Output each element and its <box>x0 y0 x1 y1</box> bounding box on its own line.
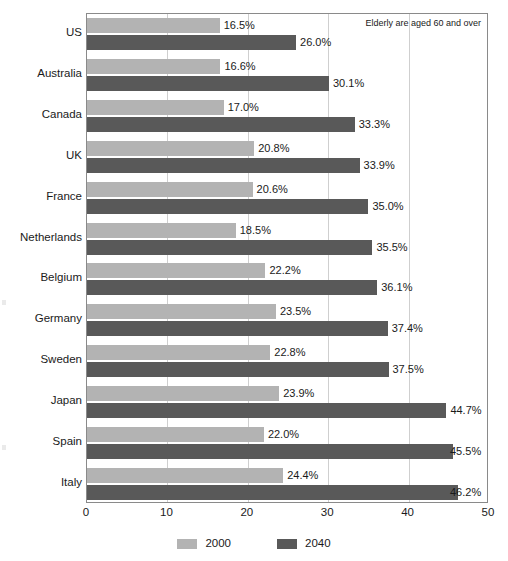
category-label-sweden: Sweden <box>2 354 82 366</box>
bar-row: 36.1% <box>87 280 487 295</box>
bar-2040-australia <box>87 76 329 91</box>
category-label-spain: Spain <box>2 436 82 448</box>
bar-track: 22.8% <box>87 345 487 360</box>
bar-2000-germany <box>87 304 276 319</box>
category-label-france: France <box>2 191 82 203</box>
bar-row: 37.4% <box>87 321 487 336</box>
bar-track: 17.0% <box>87 100 487 115</box>
x-tick-label: 50 <box>482 507 495 519</box>
bar-track: 33.3% <box>87 117 487 132</box>
bar-track: 30.1% <box>87 76 487 91</box>
bar-row: 17.0% <box>87 100 487 115</box>
elderly-population-bar-chart: USAustraliaCanadaUKFranceNetherlandsBelg… <box>0 0 508 561</box>
bar-value-label: 22.0% <box>268 429 299 440</box>
bar-value-label: 33.9% <box>364 160 395 171</box>
bar-2000-japan <box>87 386 279 401</box>
x-tick-label: 30 <box>321 507 334 519</box>
bar-row: 26.0% <box>87 35 487 50</box>
bar-value-label: 20.8% <box>258 143 289 154</box>
legend-item-2000[interactable]: 2000 <box>177 538 231 550</box>
bar-row: 45.5% <box>87 444 487 459</box>
bar-2000-us <box>87 18 220 33</box>
bar-track: 36.1% <box>87 280 487 295</box>
category-label-australia: Australia <box>2 68 82 80</box>
bar-row: 44.7% <box>87 403 487 418</box>
bar-row: 30.1% <box>87 76 487 91</box>
bar-value-label: 18.5% <box>240 225 271 236</box>
category-label-germany: Germany <box>2 313 82 325</box>
category-label-uk: UK <box>2 150 82 162</box>
bar-track: 22.2% <box>87 263 487 278</box>
bar-value-label: 24.4% <box>287 470 318 481</box>
bar-track: 35.5% <box>87 240 487 255</box>
bar-value-label: 36.1% <box>381 282 412 293</box>
category-label-japan: Japan <box>2 395 82 407</box>
bar-2000-france <box>87 182 253 197</box>
bar-value-label: 37.5% <box>393 364 424 375</box>
bar-2000-belgium <box>87 263 265 278</box>
x-tick-label: 40 <box>401 507 414 519</box>
bar-track: 20.6% <box>87 182 487 197</box>
bar-2040-canada <box>87 117 355 132</box>
bar-row: 23.5% <box>87 304 487 319</box>
bar-value-label: 16.6% <box>224 61 255 72</box>
bar-value-label: 44.7% <box>450 405 481 416</box>
bar-2000-italy <box>87 468 283 483</box>
bar-track: 45.5% <box>87 444 487 459</box>
bar-2040-belgium <box>87 280 377 295</box>
bar-2000-sweden <box>87 345 270 360</box>
bar-row: 20.6% <box>87 182 487 197</box>
x-tick-label: 0 <box>83 507 89 519</box>
legend-swatch-icon <box>277 539 297 549</box>
bar-row: 16.6% <box>87 59 487 74</box>
chart-annotation: Elderly are aged 60 and over <box>365 19 481 28</box>
bar-value-label: 17.0% <box>228 102 259 113</box>
bar-track: 16.6% <box>87 59 487 74</box>
bar-2000-netherlands <box>87 223 236 238</box>
bar-value-label: 46.2% <box>450 487 481 498</box>
bar-track: 46.2% <box>87 485 487 500</box>
bar-value-label: 22.2% <box>269 265 300 276</box>
bar-track: 33.9% <box>87 158 487 173</box>
category-label-belgium: Belgium <box>2 272 82 284</box>
bar-value-label: 35.5% <box>376 242 407 253</box>
bar-track: 35.0% <box>87 199 487 214</box>
bar-2040-italy <box>87 485 458 500</box>
legend-label: 2000 <box>205 538 231 550</box>
legend-item-2040[interactable]: 2040 <box>277 538 331 550</box>
x-tick-label: 20 <box>240 507 253 519</box>
bar-value-label: 20.6% <box>257 184 288 195</box>
bar-row: 22.8% <box>87 345 487 360</box>
bar-value-label: 35.0% <box>372 201 403 212</box>
bar-track: 37.5% <box>87 362 487 377</box>
legend-swatch-icon <box>177 539 197 549</box>
bar-track: 44.7% <box>87 403 487 418</box>
bar-value-label: 23.5% <box>280 306 311 317</box>
bar-track: 23.9% <box>87 386 487 401</box>
bar-row: 18.5% <box>87 223 487 238</box>
bar-value-label: 26.0% <box>300 37 331 48</box>
bar-track: 24.4% <box>87 468 487 483</box>
bar-2040-us <box>87 35 296 50</box>
chart-legend: 20002040 <box>0 534 508 554</box>
bar-row: 35.0% <box>87 199 487 214</box>
category-label-italy: Italy <box>2 477 82 489</box>
bar-track: 37.4% <box>87 321 487 336</box>
x-tick-label: 10 <box>160 507 173 519</box>
category-label-netherlands: Netherlands <box>2 232 82 244</box>
bar-2040-uk <box>87 158 360 173</box>
bar-2040-netherlands <box>87 240 372 255</box>
bar-value-label: 33.3% <box>359 119 390 130</box>
bar-2040-sweden <box>87 362 389 377</box>
bar-2040-germany <box>87 321 388 336</box>
bar-row: 33.3% <box>87 117 487 132</box>
bar-2040-france <box>87 199 368 214</box>
plot-area: 16.5%26.0%16.6%30.1%17.0%33.3%20.8%33.9%… <box>86 13 488 503</box>
bar-track: 23.5% <box>87 304 487 319</box>
bar-track: 18.5% <box>87 223 487 238</box>
bar-2000-canada <box>87 100 224 115</box>
bar-row: 35.5% <box>87 240 487 255</box>
bar-value-label: 22.8% <box>274 347 305 358</box>
bar-2000-australia <box>87 59 220 74</box>
category-label-canada: Canada <box>2 109 82 121</box>
